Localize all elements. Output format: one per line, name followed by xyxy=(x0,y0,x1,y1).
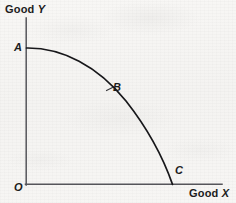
origin-label: O xyxy=(14,181,23,193)
point-label-b: B xyxy=(113,81,121,93)
y-axis-title: Good Y xyxy=(5,3,45,15)
x-axis-title: Good X xyxy=(189,187,229,199)
y-axis-variable: Y xyxy=(38,3,46,15)
production-possibility-curve xyxy=(27,48,173,184)
y-axis-title-prefix: Good xyxy=(5,3,38,15)
ppf-plot xyxy=(0,0,236,203)
x-axis-variable: X xyxy=(222,187,230,199)
scanned-figure: Good Y Good X A B C O xyxy=(0,0,236,203)
point-b-marker xyxy=(107,88,113,91)
point-label-c: C xyxy=(175,164,183,176)
x-axis-title-prefix: Good xyxy=(189,187,222,199)
point-label-a: A xyxy=(14,41,22,53)
